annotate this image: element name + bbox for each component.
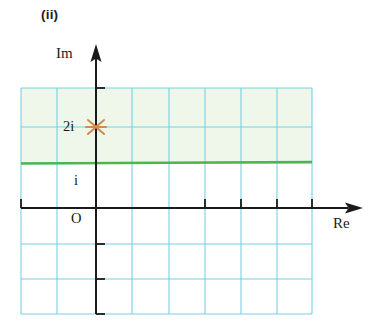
real-axis-ticks xyxy=(21,199,312,208)
origin-label: O xyxy=(71,210,81,227)
argand-diagram-figure: (ii) xyxy=(0,0,380,335)
tick-label-i: i xyxy=(74,172,78,189)
point-label-2i: 2i xyxy=(63,118,74,135)
imaginary-axis-label: Im xyxy=(56,45,73,62)
real-axis-label: Re xyxy=(333,215,350,232)
boundary-line xyxy=(21,162,312,164)
